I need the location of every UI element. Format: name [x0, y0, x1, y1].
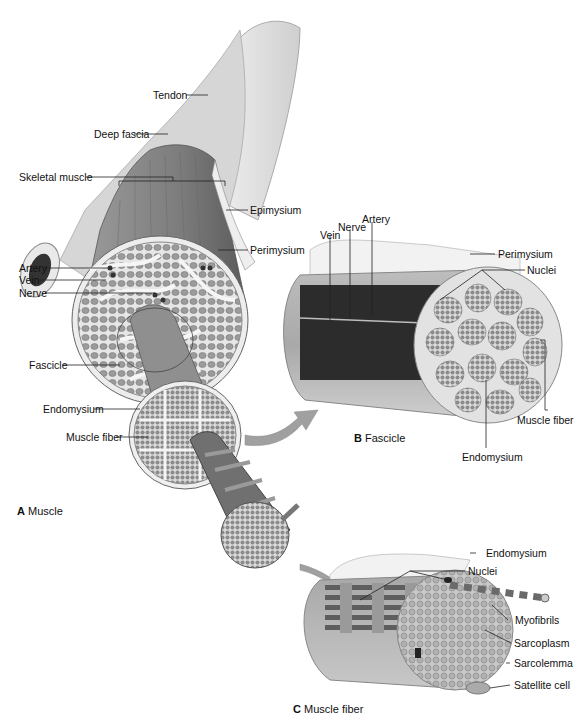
label-vein-a: Vein	[19, 274, 39, 286]
label-epimysium: Epimysium	[250, 204, 301, 216]
arrow-to-fascicle	[245, 410, 318, 446]
label-endomysium-b: Endomysium	[462, 451, 523, 463]
label-skeletal-muscle: Skeletal muscle	[19, 171, 93, 183]
label-perimysium-b: Perimysium	[498, 248, 553, 260]
label-fascicle: Fascicle	[29, 359, 68, 371]
caption-letter-b: B	[354, 432, 362, 444]
caption-panel-b: B Fascicle	[354, 432, 405, 444]
panel-a-muscle	[14, 21, 300, 568]
caption-text-a: Muscle	[28, 505, 63, 517]
label-nerve-a: Nerve	[19, 287, 47, 299]
caption-panel-a: A Muscle	[17, 505, 63, 517]
panel-b-fascicle	[284, 240, 562, 423]
label-tendon: Tendon	[153, 89, 187, 101]
label-muscle-fiber-a: Muscle fiber	[66, 431, 123, 443]
label-artery-a: Artery	[19, 262, 47, 274]
caption-text-b: Fascicle	[365, 432, 405, 444]
label-muscle-fiber-b: Muscle fiber	[517, 414, 574, 426]
label-sarcolemma: Sarcolemma	[514, 657, 573, 669]
caption-panel-c: C Muscle fiber	[293, 703, 363, 715]
caption-text-c: Muscle fiber	[304, 703, 363, 715]
label-nuclei-c: Nuclei	[468, 565, 497, 577]
caption-letter-c: C	[293, 703, 301, 715]
label-artery-b: Artery	[362, 213, 390, 225]
label-perimysium-a: Perimysium	[250, 244, 305, 256]
label-endomysium-a: Endomysium	[43, 403, 104, 415]
muscle-fiber-cross-section	[221, 502, 289, 568]
caption-letter-a: A	[17, 505, 25, 517]
muscle-anatomy-figure	[0, 0, 583, 720]
label-myofibrils: Myofibrils	[515, 614, 559, 626]
label-sarcoplasm: Sarcoplasm	[514, 637, 569, 649]
satellite-cell	[466, 682, 490, 694]
label-nuclei-b: Nuclei	[527, 264, 556, 276]
label-deep-fascia: Deep fascia	[94, 128, 149, 140]
label-satellite-cell: Satellite cell	[514, 679, 570, 691]
label-endomysium-c: Endomysium	[486, 547, 547, 559]
